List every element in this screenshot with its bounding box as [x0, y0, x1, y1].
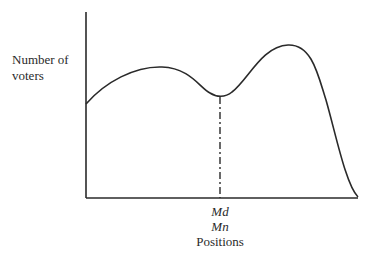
x-axis-label: Positions: [170, 234, 270, 249]
y-axis-label: Number of voters: [12, 52, 82, 84]
y-axis-label-line2: voters: [12, 68, 82, 84]
mean-label: Mn: [170, 219, 270, 234]
y-axis-label-line1: Number of: [12, 52, 82, 68]
distribution-curve: [86, 45, 358, 197]
voter-distribution-figure: Number of voters Md Mn Positions: [0, 0, 368, 255]
median-label: Md: [170, 204, 270, 219]
x-axis-annotations: Md Mn Positions: [170, 204, 270, 249]
